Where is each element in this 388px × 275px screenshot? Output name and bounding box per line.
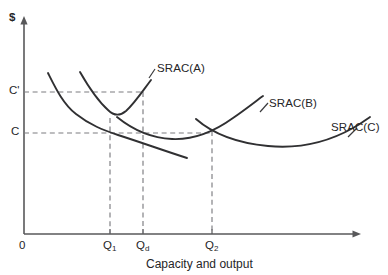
x-tick-label-q2-base: Q: [205, 239, 214, 251]
x-tick-label-q1: Q1: [103, 240, 116, 252]
x-tick-label-q1-base: Q: [103, 239, 112, 251]
y-axis-arrow-icon: [20, 16, 27, 25]
x-tick-label-qd-sub: d: [145, 244, 149, 253]
curve-srac-a: [80, 72, 151, 115]
curve-label-srac-a: SRAC(A): [157, 63, 205, 75]
y-tick-label-c-prime: C': [9, 85, 20, 97]
leader-srac-b: [260, 103, 268, 112]
x-axis-arrow-icon: [353, 230, 362, 237]
y-axis-symbol: $: [9, 12, 15, 24]
curve-label-srac-b: SRAC(B): [269, 98, 317, 110]
x-axis-title: Capacity and output: [146, 258, 253, 270]
figure-canvas: [0, 0, 388, 275]
x-tick-label-qd: Qd: [136, 240, 149, 252]
leader-srac-a: [149, 69, 155, 78]
x-tick-label-q1-sub: 1: [112, 244, 116, 253]
cost-curve-figure: $ C' C 0 Q1 Qd Q2 Capacity and output SR…: [0, 0, 388, 275]
x-tick-label-q2-sub: 2: [214, 244, 218, 253]
x-tick-label-qd-base: Q: [136, 239, 145, 251]
curve-label-srac-c: SRAC(C): [331, 122, 380, 134]
y-tick-label-c: C: [11, 126, 19, 138]
x-tick-label-q2: Q2: [205, 240, 218, 252]
origin-label: 0: [19, 240, 25, 252]
